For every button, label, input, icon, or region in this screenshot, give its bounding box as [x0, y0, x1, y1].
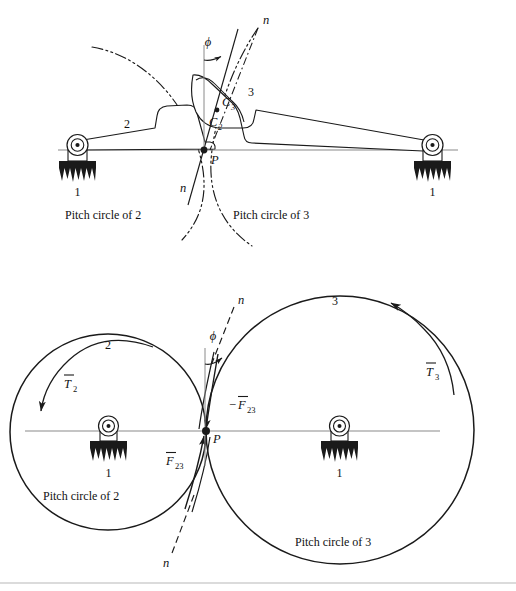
bottom-bearing-left: 1: [90, 416, 127, 480]
svg-text:−: −: [229, 398, 236, 412]
bottom-label-torque-3: T 3: [426, 363, 439, 382]
svg-text:T: T: [64, 377, 72, 391]
bottom-label-neg-f23: − F 23: [229, 397, 256, 416]
figure-container: ϕ n n P C 3 C 2 2 3 1: [0, 0, 516, 591]
bottom-force-line-neg-f23: [206, 354, 218, 429]
top-normal-label-bottom: n: [180, 181, 186, 195]
top-phi-arc: [204, 57, 221, 61]
svg-text:2: 2: [73, 384, 77, 394]
bottom-link-1-right-label: 1: [337, 466, 343, 480]
top-phi-label: ϕ: [205, 35, 212, 49]
bottom-torque-2-arc: [41, 340, 153, 411]
top-point-P-label: P: [210, 153, 219, 167]
svg-text:23: 23: [247, 405, 256, 415]
svg-text:23: 23: [175, 461, 184, 471]
bottom-normal-label-top: n: [238, 293, 244, 307]
svg-text:3: 3: [435, 372, 439, 382]
top-contact-c3-dot: [215, 108, 220, 113]
svg-text:C: C: [209, 115, 218, 129]
svg-text:C: C: [222, 95, 231, 109]
svg-text:T: T: [426, 365, 434, 379]
bottom-force-line-f23: [185, 436, 204, 509]
bottom-gear-2-label: 2: [105, 338, 111, 352]
svg-text:3: 3: [230, 102, 235, 112]
bottom-pitch-circle-2-caption: Pitch circle of 2: [43, 489, 119, 503]
bottom-bearing-right: 1: [321, 416, 358, 480]
bottom-point-P-label: P: [212, 432, 221, 446]
top-link-2-label: 2: [124, 117, 130, 131]
top-link-3-body: [192, 75, 432, 151]
bottom-gear-3-label: 3: [332, 294, 338, 308]
svg-text:F: F: [237, 398, 246, 412]
bottom-diagram: ϕ n n P − F 23 F 23 T 2 T 3: [10, 293, 474, 570]
bottom-torque-3-arc: [391, 303, 454, 395]
top-pitch-circle-3-caption: Pitch circle of 3: [233, 208, 309, 222]
bottom-link-1-left-label: 1: [106, 466, 112, 480]
bottom-normal-label-bottom: n: [163, 556, 169, 570]
figure-svg: ϕ n n P C 3 C 2 2 3 1: [0, 0, 516, 591]
top-normal-label-top: n: [263, 13, 269, 27]
top-link-1-right-label: 1: [430, 185, 436, 199]
svg-text:F: F: [165, 454, 174, 468]
bottom-pitch-point-P: [202, 427, 210, 435]
bottom-pitch-circle-3-caption: Pitch circle of 3: [295, 535, 371, 549]
bottom-label-f23: F 23: [165, 453, 184, 472]
top-link-3-label: 3: [248, 85, 254, 99]
top-pitch-point-P: [201, 147, 208, 154]
top-link-1-left-label: 1: [75, 185, 81, 199]
top-diagram: ϕ n n P C 3 C 2 2 3 1: [58, 13, 458, 246]
top-link-2-body: [71, 105, 215, 150]
bottom-label-torque-2: T 2: [64, 375, 77, 394]
bottom-phi-label: ϕ: [210, 329, 217, 343]
top-pitch-circle-2-caption: Pitch circle of 2: [65, 208, 141, 222]
